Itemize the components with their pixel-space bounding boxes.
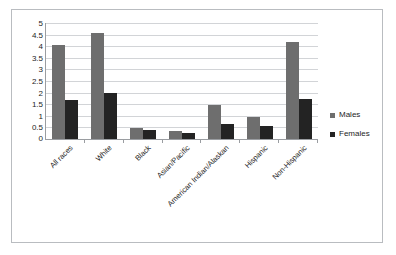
- x-axis-tick: [124, 139, 163, 143]
- legend-label: Females: [339, 130, 370, 138]
- bar-group: [46, 23, 85, 139]
- x-axis-label: All races: [49, 144, 75, 170]
- x-axis-ticks: [46, 139, 318, 143]
- x-axis-tick: [163, 139, 202, 143]
- y-axis-tick-label: 4: [39, 43, 43, 51]
- x-axis-label: White: [95, 144, 114, 163]
- bar-group: [163, 23, 202, 139]
- bar-males: [52, 45, 65, 139]
- legend-label: Males: [339, 111, 360, 119]
- x-axis-label: Hispanic: [244, 144, 270, 170]
- x-axis-label: Black: [134, 144, 153, 163]
- bar-females: [299, 99, 312, 139]
- x-axis-label: Non-Hispanic: [271, 144, 309, 182]
- y-axis-tick-label: 1: [39, 113, 43, 121]
- plot-area: 54.543.532.521.510.50: [45, 23, 318, 140]
- bar-females: [221, 124, 234, 139]
- bar-group: [279, 23, 318, 139]
- legend-swatch-icon: [330, 113, 335, 118]
- chart-frame: 54.543.532.521.510.50 All racesWhiteBlac…: [11, 9, 383, 243]
- legend-item-females[interactable]: Females: [330, 130, 390, 138]
- bar-females: [260, 126, 273, 139]
- legend-swatch-icon: [330, 132, 335, 137]
- x-axis-tick: [240, 139, 279, 143]
- bar-males: [169, 131, 182, 139]
- legend-item-males[interactable]: Males: [330, 111, 390, 119]
- bar-group: [124, 23, 163, 139]
- bar-females: [143, 130, 156, 139]
- bar-group: [201, 23, 240, 139]
- bar-group: [85, 23, 124, 139]
- bar-males: [130, 128, 143, 139]
- bar-females: [104, 93, 117, 139]
- x-axis-tick: [201, 139, 240, 143]
- chart-legend: MalesFemales: [330, 111, 390, 149]
- y-axis-tick-label: 0.5: [32, 124, 43, 132]
- x-axis-tick: [46, 139, 85, 143]
- x-axis-label: Asian/Pacific: [156, 144, 192, 180]
- bar-females: [65, 100, 78, 139]
- bar-males: [91, 33, 104, 139]
- y-axis-tick-label: 3: [39, 66, 43, 74]
- bar-males: [247, 117, 260, 140]
- y-axis-tick-label: 0: [39, 135, 43, 143]
- y-axis-tick-label: 2: [39, 90, 43, 98]
- y-axis-tick-label: 3.5: [32, 55, 43, 63]
- x-axis-tick: [279, 139, 318, 143]
- bars-layer: [46, 23, 318, 139]
- y-axis-tick-label: 4.5: [32, 32, 43, 40]
- bar-males: [286, 42, 299, 139]
- y-axis-tick-label: 5: [39, 20, 43, 28]
- bar-group: [240, 23, 279, 139]
- y-axis-tick-label: 2.5: [32, 78, 43, 86]
- x-axis-tick: [85, 139, 124, 143]
- y-axis-tick-label: 1.5: [32, 101, 43, 109]
- bar-males: [208, 105, 221, 139]
